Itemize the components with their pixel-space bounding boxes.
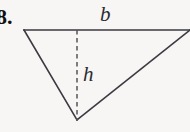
triangle-left-edge [24,30,77,120]
triangle-diagram [0,0,190,132]
height-label: h [83,62,94,86]
triangle-right-edge [77,30,190,120]
figure-container: 8. b h [0,0,190,132]
base-label: b [100,2,111,26]
